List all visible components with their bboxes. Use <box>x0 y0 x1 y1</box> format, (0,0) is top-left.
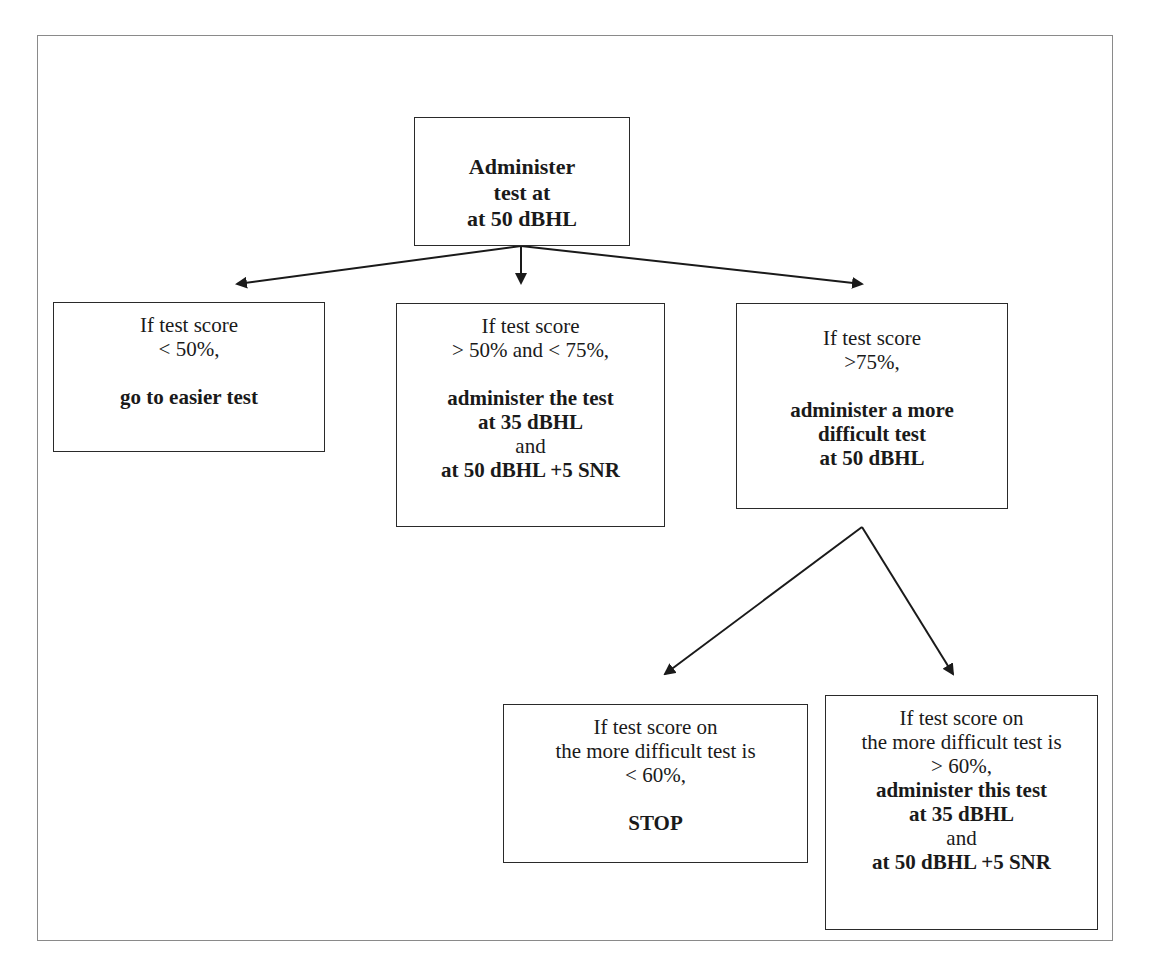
node-low-line-1: If test score <box>140 313 238 337</box>
node-continue-line-6: and <box>946 826 976 850</box>
node-stop-line-2: the more difficult test is <box>555 739 755 763</box>
node-mid-line-2: > 50% and < 75%, <box>452 338 609 362</box>
node-continue-line-3: > 60%, <box>931 754 992 778</box>
node-mid-line-4: administer the test <box>447 386 613 410</box>
node-mid-line-5: at 35 dBHL <box>478 410 583 434</box>
node-stop-line-5: STOP <box>628 811 682 835</box>
node-start-line-3: at 50 dBHL <box>467 206 577 232</box>
node-start-line-1: Administer <box>469 154 575 180</box>
node-continue-line-7: at 50 dBHL +5 SNR <box>872 850 1051 874</box>
node-continue-line-4: administer this test <box>876 778 1047 802</box>
node-start: Administer test at at 50 dBHL <box>414 117 630 246</box>
node-high-score: If test score >75%, administer a more di… <box>736 303 1008 509</box>
node-mid-line-7: at 50 dBHL +5 SNR <box>441 458 620 482</box>
node-stop-line-1: If test score on <box>593 715 717 739</box>
node-low-line-4: go to easier test <box>120 385 258 409</box>
node-high-line-4: administer a more <box>790 398 954 422</box>
node-low-line-2: < 50%, <box>159 337 220 361</box>
node-mid-score: If test score > 50% and < 75%, administe… <box>396 303 665 527</box>
node-mid-line-6: and <box>515 434 545 458</box>
node-high-line-1: If test score <box>823 326 921 350</box>
node-high-line-2: >75%, <box>844 350 900 374</box>
node-mid-line-1: If test score <box>482 314 580 338</box>
node-low-score: If test score < 50%, go to easier test <box>53 302 325 452</box>
node-stop: If test score on the more difficult test… <box>503 704 808 863</box>
node-continue-line-2: the more difficult test is <box>861 730 1061 754</box>
node-start-line-2: test at <box>494 180 551 206</box>
node-stop-line-3: < 60%, <box>625 763 686 787</box>
node-continue-line-5: at 35 dBHL <box>909 802 1014 826</box>
node-high-line-5: difficult test <box>818 422 926 446</box>
node-continue: If test score on the more difficult test… <box>825 695 1098 930</box>
node-high-line-6: at 50 dBHL <box>819 446 924 470</box>
node-continue-line-1: If test score on <box>899 706 1023 730</box>
